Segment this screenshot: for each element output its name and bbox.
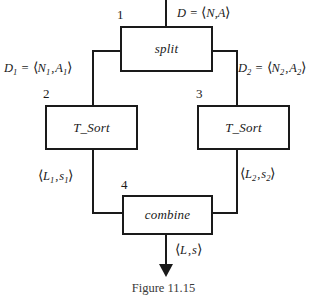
edge-label-d2-t1-sub: 2 [280,67,284,77]
box-number-tsort-left: 2 [43,86,50,102]
process-box-split[interactable]: split [120,26,213,72]
edge-label-input-name: D [177,6,186,20]
edge-label-l1s1-t1: L [43,169,50,183]
process-box-tsort-left[interactable]: T_Sort [45,105,138,150]
edge-label-l2s2-t1: L [245,167,252,181]
angle-close-icon: ⟩ [68,168,73,183]
box-number-split: 1 [117,7,124,23]
edge-label-l2s2-t1-sub: 2 [252,173,256,183]
angle-close-icon: ⟩ [301,60,306,75]
process-label-tsort-left: T_Sort [73,120,110,136]
edge-label-l1s1-t2-sub: 1 [64,175,68,185]
edge-label-d1-eq: = [20,61,29,75]
box-number-combine: 4 [121,177,128,193]
edge-label-d1-name-sub: 1 [13,67,17,77]
process-label-tsort-right: T_Sort [225,120,262,136]
edge-label-d1-t2-sub: 1 [63,67,67,77]
process-label-split: split [155,41,178,57]
edge-split-to-tsort-left [93,51,120,105]
angle-close-icon: ⟩ [67,60,72,75]
edge-label-output: ⟨L,s⟩ [175,241,202,258]
edge-label-l1s1: ⟨L1,s1⟩ [38,167,73,184]
box-number-tsort-right: 3 [196,86,203,102]
edge-label-d2: D2 = ⟨N2,A2⟩ [238,59,306,76]
edge-label-d2-name: D [238,61,247,75]
angle-close-icon: ⟩ [270,166,275,181]
edge-label-d1-t1-sub: 1 [46,67,50,77]
edge-tsort-left-to-combine [93,150,122,213]
edge-label-d2-t2-sub: 2 [297,67,301,77]
angle-close-icon: ⟩ [225,5,230,20]
process-box-combine[interactable]: combine [122,195,213,235]
edge-label-output-t1: L [180,243,187,257]
edge-label-d2-t1: N [272,61,280,75]
figure-caption: Figure 11.15 [0,281,327,296]
edge-label-l2s2-t2-sub: 2 [266,173,270,183]
edge-label-l1s1-t1-sub: 1 [50,175,54,185]
edge-label-input-eq: = [189,6,198,20]
process-box-tsort-right[interactable]: T_Sort [197,105,290,150]
edge-label-input: D = ⟨N,A⟩ [177,4,230,21]
edge-tsort-right-to-combine [213,150,237,213]
edge-label-d1-t1: N [38,61,46,75]
edge-label-d2-name-sub: 2 [247,67,251,77]
edge-label-d2-eq: = [254,61,263,75]
edge-label-l2s2: ⟨L2,s2⟩ [240,165,275,182]
process-label-combine: combine [145,207,190,223]
edge-label-d1-name: D [4,61,13,75]
angle-close-icon: ⟩ [197,242,202,257]
edge-split-to-tsort-right [213,51,237,105]
edge-label-d2-t2: A [289,61,297,75]
edge-label-d1: D1 = ⟨N1,A1⟩ [4,59,72,76]
edge-label-input-tuple: N,A [206,6,225,20]
edge-label-d1-t2: A [55,61,63,75]
output-arrowhead [159,264,173,277]
